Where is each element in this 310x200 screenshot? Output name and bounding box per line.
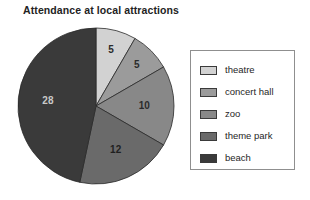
legend-list: theatreconcert hallzootheme parkbeach — [191, 51, 294, 169]
pie-slice-value-beach: 28 — [42, 95, 54, 106]
chart-title: Attendance at local attractions — [23, 4, 179, 16]
pie-slice-group — [18, 28, 174, 184]
legend-swatch-icon — [200, 110, 217, 119]
legend-swatch-icon — [200, 132, 217, 141]
pie-slice-value-concert-hall: 5 — [134, 59, 140, 70]
legend-item-label: theme park — [225, 131, 273, 141]
legend-item-label: theatre — [225, 65, 255, 75]
pie-slice-value-theme-park: 12 — [110, 144, 122, 155]
legend-item-concert-hall[interactable]: concert hall — [200, 81, 294, 103]
pie-slice-value-zoo: 10 — [139, 100, 151, 111]
legend-item-label: zoo — [225, 109, 240, 119]
pie-chart-figure: Attendance at local attractions 55101228… — [0, 0, 310, 200]
legend-item-theme-park[interactable]: theme park — [200, 125, 294, 147]
legend-swatch-icon — [200, 66, 217, 75]
legend-item-zoo[interactable]: zoo — [200, 103, 294, 125]
legend-item-label: beach — [225, 153, 251, 163]
legend-swatch-icon — [200, 88, 217, 97]
legend-item-theatre[interactable]: theatre — [200, 59, 294, 81]
legend-item-label: concert hall — [225, 87, 274, 97]
legend-box: theatreconcert hallzootheme parkbeach — [190, 50, 295, 170]
legend-swatch-icon — [200, 154, 217, 163]
legend-item-beach[interactable]: beach — [200, 147, 294, 169]
pie-plot-area: 55101228 — [16, 26, 176, 186]
pie-slice-beach[interactable] — [18, 28, 96, 182]
pie-svg: 55101228 — [16, 26, 176, 186]
pie-slice-value-theatre: 5 — [108, 44, 114, 55]
